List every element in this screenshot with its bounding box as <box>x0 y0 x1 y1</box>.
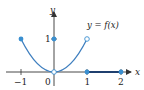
function-label-rhs: f(x) <box>103 20 119 30</box>
filled-point-neg1-1 <box>19 37 24 42</box>
open-point-0-0 <box>52 70 57 75</box>
function-label-eq: = <box>92 20 105 30</box>
x-axis-label: x <box>135 67 140 77</box>
x-tick-label-neg1: −1 <box>14 77 27 87</box>
x-tick-label-0: 0 <box>45 77 51 87</box>
filled-point-0-1 <box>52 37 57 42</box>
filled-point-2-0 <box>119 70 124 75</box>
filled-point-1-0 <box>85 70 90 75</box>
function-graph: y x y = f(x) −1 0 1 2 1 <box>0 0 144 90</box>
y-tick-label-1: 1 <box>45 34 51 44</box>
open-point-1-1 <box>85 37 90 42</box>
x-tick-label-2: 2 <box>118 77 124 87</box>
x-tick-label-1: 1 <box>85 77 91 87</box>
y-axis-label: y <box>49 5 56 15</box>
function-label: y = f(x) <box>86 20 119 30</box>
